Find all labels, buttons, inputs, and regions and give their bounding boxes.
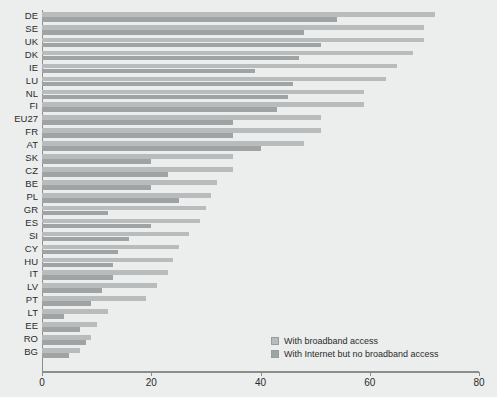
bar-row [42,23,479,36]
legend-swatch-broadband [271,337,279,345]
chart-page: DESEUKDKIELUNLFIEU27FRATSKCZBEPLGRESSICY… [0,0,497,397]
bar-broadband [42,348,80,353]
y-axis-tick-label: RO [0,333,38,346]
y-axis-tick-label: EE [0,320,38,333]
x-axis-tick [151,372,152,376]
y-axis-tick-label: PT [0,294,38,307]
bar-no-broadband [42,275,113,280]
bar-row [42,126,479,139]
bar-broadband [42,322,97,327]
bar-broadband [42,180,217,185]
bar-row [42,320,479,333]
y-axis-labels: DESEUKDKIELUNLFIEU27FRATSKCZBEPLGRESSICY… [0,10,38,372]
bar-row [42,307,479,320]
bar-row [42,62,479,75]
x-axis-tick-label: 40 [255,377,266,388]
y-axis-tick-label: LT [0,307,38,320]
bar-broadband [42,64,397,69]
bar-broadband [42,77,386,82]
x-axis-tick [479,372,480,376]
y-axis-tick-label: CZ [0,165,38,178]
x-axis-tick-label: 20 [146,377,157,388]
y-axis-tick-label: SK [0,152,38,165]
y-axis-tick-label: NL [0,88,38,101]
bar-no-broadband [42,314,64,319]
bar-row [42,191,479,204]
bar-row [42,165,479,178]
x-axis-tick-label: 0 [39,377,45,388]
y-axis-tick-label: HU [0,256,38,269]
bar-broadband [42,245,179,250]
bar-broadband [42,283,157,288]
bar-row [42,217,479,230]
bar-broadband [42,128,321,133]
bar-row [42,113,479,126]
bar-broadband [42,115,321,120]
bar-broadband [42,141,304,146]
bar-row [42,256,479,269]
bar-row [42,100,479,113]
x-axis-tick [370,372,371,376]
bar-row [42,281,479,294]
y-axis-tick-label: EU27 [0,113,38,126]
bar-broadband [42,193,211,198]
x-axis-tick-label: 60 [364,377,375,388]
x-axis-tick-label: 80 [473,377,484,388]
chart-legend: With broadband accessWith Internet but n… [271,335,439,361]
y-axis-tick-label: CY [0,243,38,256]
bar-no-broadband [42,43,321,48]
bar-no-broadband [42,288,102,293]
y-axis-tick-label: FI [0,100,38,113]
x-axis-tick [42,372,43,376]
y-axis-tick-label: BE [0,178,38,191]
bar-row [42,36,479,49]
bar-broadband [42,51,413,56]
bar-broadband [42,258,173,263]
bar-row [42,75,479,88]
y-axis-tick-label: UK [0,36,38,49]
y-axis-tick-label: SI [0,230,38,243]
bar-broadband [42,270,168,275]
legend-item: With Internet but no broadband access [271,348,439,360]
bar-row [42,294,479,307]
bar-row [42,152,479,165]
x-axis-tick [261,372,262,376]
y-axis-tick-label: PL [0,191,38,204]
bar-no-broadband [42,327,80,332]
bar-row [42,178,479,191]
bar-broadband [42,206,206,211]
bar-row [42,230,479,243]
y-axis-tick-label: AT [0,139,38,152]
y-axis-tick-label: DK [0,49,38,62]
bar-broadband [42,90,364,95]
bar-no-broadband [42,159,151,164]
bar-broadband [42,335,91,340]
bar-no-broadband [42,301,91,306]
bar-no-broadband [42,237,129,242]
y-axis-tick-label: GR [0,204,38,217]
bar-row [42,49,479,62]
bar-broadband [42,154,233,159]
bar-broadband [42,219,200,224]
bar-no-broadband [42,146,261,151]
bar-no-broadband [42,172,168,177]
bar-no-broadband [42,30,304,35]
legend-item-label: With Internet but no broadband access [284,349,439,359]
bar-broadband [42,167,233,172]
bar-no-broadband [42,69,255,74]
bar-broadband [42,12,435,17]
bar-no-broadband [42,263,113,268]
y-axis-tick-label: IE [0,62,38,75]
bar-no-broadband [42,250,118,255]
bar-no-broadband [42,198,179,203]
bar-row [42,204,479,217]
bar-row [42,268,479,281]
bar-broadband [42,309,108,314]
y-axis-tick-label: ES [0,217,38,230]
y-axis-tick-label: LU [0,75,38,88]
y-axis-tick-label: BG [0,346,38,359]
y-axis-tick-label: DE [0,10,38,23]
bar-no-broadband [42,17,337,22]
bar-row [42,139,479,152]
bar-no-broadband [42,185,151,190]
